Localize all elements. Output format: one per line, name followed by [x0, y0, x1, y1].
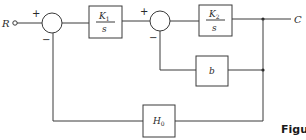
- summing-junction-2: [150, 11, 170, 31]
- k1-denominator: s: [102, 24, 107, 34]
- sum2-minus-sign: −: [149, 32, 157, 43]
- sum1-minus-sign: −: [42, 34, 50, 45]
- input-label-r: R: [1, 18, 10, 29]
- output-label-c: C: [294, 14, 302, 25]
- block-diagram: R + − K1 s + − K2 s C b H0 Figu: [0, 0, 306, 140]
- sum2-plus-sign: +: [140, 6, 148, 17]
- input-terminal-icon: [13, 21, 17, 25]
- figure-caption-fragment: Figu: [281, 123, 306, 136]
- summing-junction-1: [42, 13, 62, 33]
- k2-denominator: s: [212, 23, 217, 33]
- b-label: b: [209, 66, 215, 76]
- sum1-plus-sign: +: [32, 8, 40, 19]
